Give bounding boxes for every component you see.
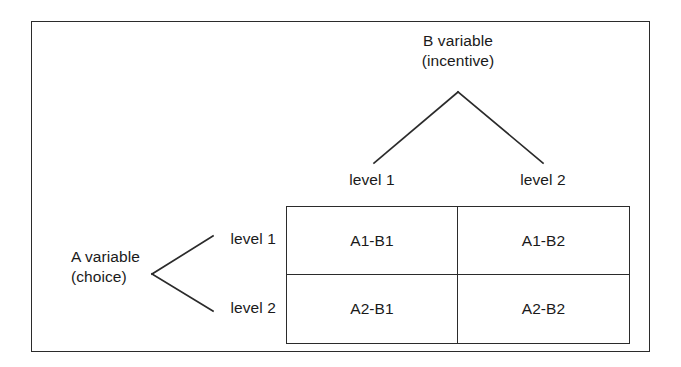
row-header-level-1: level 1 xyxy=(230,229,276,249)
column-header-level-2: level 2 xyxy=(520,170,566,190)
matrix-cell-a2-b2: A2-B2 xyxy=(458,275,629,343)
matrix-cell-a1-b1: A1-B1 xyxy=(287,207,458,275)
design-matrix: A1-B1 A1-B2 A2-B1 A2-B2 xyxy=(286,206,630,344)
row-header-level-2: level 2 xyxy=(230,298,276,318)
matrix-cell-a2-b1: A2-B1 xyxy=(287,275,458,343)
a-variable-label: A variable (choice) xyxy=(71,247,140,287)
column-header-level-1: level 1 xyxy=(349,170,395,190)
matrix-cell-a1-b2: A1-B2 xyxy=(458,207,629,275)
b-variable-label: B variable (incentive) xyxy=(422,31,495,71)
factorial-design-diagram: B variable (incentive) A variable (choic… xyxy=(0,0,681,367)
